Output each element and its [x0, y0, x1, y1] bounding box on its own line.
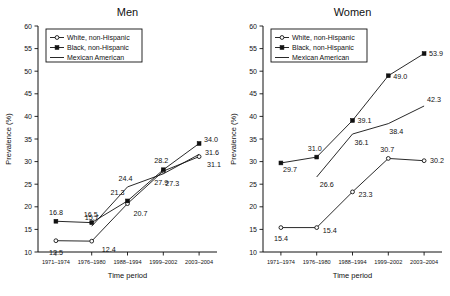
- legend-marker: [55, 46, 59, 50]
- x-tick-label: 1988–1994: [114, 259, 142, 265]
- x-tick-label: 1976–1980: [303, 259, 331, 265]
- y-tick-label: 25: [249, 181, 257, 188]
- data-point-label: 31.6: [205, 148, 219, 157]
- data-point-label: 29.7: [283, 165, 297, 174]
- chart-title: Men: [117, 6, 138, 18]
- data-point-label: 49.0: [393, 72, 407, 81]
- y-tick-label: 15: [24, 226, 32, 233]
- x-axis-title: Time period: [108, 271, 147, 280]
- data-point-label: 34.0: [204, 135, 218, 144]
- chart-women: Women60555045403530252015101971–19741976…: [225, 0, 450, 296]
- data-point-label: 26.6: [320, 180, 334, 189]
- data-point-marker: [315, 155, 319, 159]
- y-tick-label: 60: [249, 23, 257, 30]
- y-tick-label: 10: [24, 249, 32, 256]
- y-tick-label: 40: [24, 113, 32, 120]
- data-point-label: 15.4: [274, 234, 288, 243]
- y-tick-label: 20: [24, 203, 32, 210]
- y-tick-label: 55: [24, 45, 32, 52]
- chart-title: Women: [334, 6, 372, 18]
- legend-label: Mexican American: [292, 54, 349, 61]
- data-point-label: 28.2: [154, 156, 168, 165]
- x-tick-label: 1999–2002: [374, 259, 402, 265]
- x-tick-label: 1971–1974: [42, 259, 70, 265]
- legend-label: Mexican American: [67, 54, 124, 61]
- x-tick-label: 2003–2004: [185, 259, 213, 265]
- legend-label: Black, non-Hispanic: [292, 44, 354, 52]
- data-point-marker: [90, 239, 94, 243]
- data-point-label: 12.5: [49, 248, 63, 257]
- data-point-marker: [279, 226, 283, 230]
- legend-marker: [280, 36, 284, 40]
- y-tick-label: 50: [249, 68, 257, 75]
- x-axis-title: Time period: [333, 271, 372, 280]
- series-line: [281, 54, 424, 163]
- y-tick-label: 45: [249, 90, 257, 97]
- y-axis-title: Prevalence (%): [229, 113, 238, 165]
- y-axis-title: Prevalence (%): [4, 113, 13, 165]
- data-point-label: 42.3: [427, 95, 441, 104]
- y-tick-label: 35: [249, 136, 257, 143]
- y-tick-label: 20: [249, 203, 257, 210]
- data-point-marker: [54, 239, 58, 243]
- x-tick-label: 1988–1994: [339, 259, 367, 265]
- data-point-label: 31.0: [308, 144, 322, 153]
- legend-marker: [280, 46, 284, 50]
- data-point-marker: [386, 157, 390, 161]
- y-tick-label: 50: [24, 68, 32, 75]
- data-point-marker: [197, 142, 201, 146]
- data-point-label: 36.1: [355, 138, 369, 147]
- data-point-marker: [351, 190, 355, 194]
- data-point-label: 12.4: [102, 245, 116, 254]
- y-tick-label: 40: [249, 113, 257, 120]
- data-point-label: 30.7: [380, 145, 394, 154]
- chart-panel-women: Women60555045403530252015101971–19741976…: [225, 0, 450, 296]
- data-point-marker: [351, 119, 355, 123]
- x-tick-label: 1971–1974: [267, 259, 295, 265]
- data-point-marker: [386, 74, 390, 78]
- legend-label: Black, non-Hispanic: [67, 44, 129, 52]
- legend-label: White, non-Hispanic: [67, 34, 130, 42]
- x-tick-label: 1976–1980: [78, 259, 106, 265]
- chart-men: Men60555045403530252015101971–19741976–1…: [0, 0, 225, 296]
- data-point-marker: [422, 52, 426, 56]
- y-tick-label: 60: [24, 23, 32, 30]
- data-point-marker: [161, 168, 165, 172]
- data-point-label: 24.4: [119, 174, 133, 183]
- data-point-label: 39.1: [358, 116, 372, 125]
- data-point-marker: [422, 159, 426, 163]
- data-point-marker: [54, 219, 58, 223]
- data-point-label: 16.8: [49, 208, 63, 217]
- y-tick-label: 35: [24, 136, 32, 143]
- data-point-marker: [126, 199, 130, 203]
- data-point-label: 23.3: [359, 190, 373, 199]
- data-point-label: 31.1: [207, 160, 221, 169]
- data-point-label: 15.7: [85, 213, 99, 222]
- legend-label: White, non-Hispanic: [292, 34, 355, 42]
- chart-panel-men: Men60555045403530252015101971–19741976–1…: [0, 0, 225, 296]
- x-tick-label: 2003–2004: [410, 259, 438, 265]
- legend-marker: [55, 36, 59, 40]
- data-point-label: 30.2: [430, 156, 444, 165]
- y-tick-label: 45: [24, 90, 32, 97]
- x-tick-label: 1999–2002: [149, 259, 177, 265]
- y-tick-label: 30: [24, 158, 32, 165]
- data-point-label: 53.9: [429, 49, 443, 58]
- figure-root: Men60555045403530252015101971–19741976–1…: [0, 0, 450, 296]
- y-tick-label: 30: [249, 158, 257, 165]
- y-tick-label: 55: [249, 45, 257, 52]
- y-tick-label: 25: [24, 181, 32, 188]
- data-point-label: 38.4: [389, 127, 403, 136]
- data-point-label: 20.7: [134, 209, 148, 218]
- data-point-label: 27.3: [165, 179, 179, 188]
- data-point-marker: [315, 226, 319, 230]
- y-tick-label: 15: [249, 226, 257, 233]
- data-point-label: 15.4: [323, 226, 337, 235]
- y-tick-label: 10: [249, 249, 257, 256]
